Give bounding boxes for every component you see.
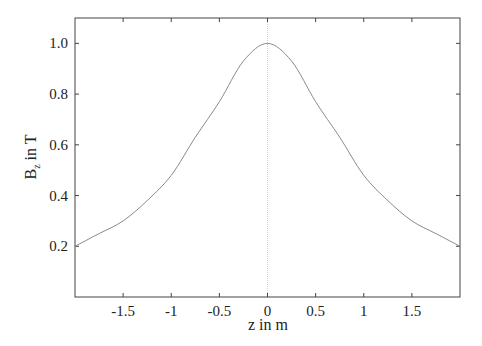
y-tick-label: 0.8 — [49, 86, 68, 102]
y-tick-label: 1.0 — [49, 35, 68, 51]
y-axis-label: Bz in T — [22, 134, 42, 179]
x-tick-label: 1.5 — [403, 303, 422, 319]
x-axis-label: z in m — [248, 316, 289, 333]
x-tick-label: -0.5 — [208, 303, 232, 319]
x-tick-label: -1 — [165, 303, 178, 319]
x-tick-label: 1 — [360, 303, 368, 319]
axis-ticks — [75, 18, 460, 297]
y-tick-label: 0.2 — [49, 238, 68, 254]
plot-frame — [75, 18, 460, 297]
x-tick-label: 0.5 — [306, 303, 325, 319]
y-tick-label: 0.4 — [49, 188, 68, 204]
y-tick-labels: 0.20.40.60.81.0 — [49, 35, 68, 254]
x-tick-label: -1.5 — [111, 303, 135, 319]
chart: -1.5-1-0.500.511.5 0.20.40.60.81.0 z in … — [0, 0, 482, 346]
y-tick-label: 0.6 — [49, 137, 68, 153]
